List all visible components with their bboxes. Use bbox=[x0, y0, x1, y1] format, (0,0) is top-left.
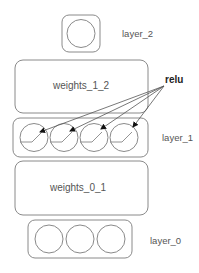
layer-1-neuron bbox=[80, 124, 108, 152]
layer-1-neuron bbox=[50, 124, 78, 152]
layer-0-label: layer_0 bbox=[150, 235, 181, 246]
layer-0-group: layer_0 bbox=[28, 220, 181, 258]
relu-label: relu bbox=[165, 74, 183, 85]
layer-1-label: layer_1 bbox=[162, 132, 193, 143]
weights-1-2-group: weights_1_2 bbox=[15, 60, 148, 113]
layer-2-neuron bbox=[67, 20, 95, 48]
layer-0-neuron bbox=[66, 225, 94, 253]
layer-2-label: layer_2 bbox=[122, 28, 153, 39]
layer-1-neuron bbox=[110, 124, 138, 152]
weights-1-2-label: weights_1_2 bbox=[52, 80, 110, 91]
layer-1-neuron bbox=[20, 124, 48, 152]
layer-1-group: layer_1 bbox=[13, 118, 193, 157]
neural-network-diagram: layer_2 weights_1_2 layer_1 relu bbox=[0, 0, 199, 273]
layer-0-neuron bbox=[97, 225, 125, 253]
weights-0-1-group: weights_0_1 bbox=[15, 161, 148, 215]
layer-0-neuron bbox=[35, 225, 63, 253]
layer-2-group: layer_2 bbox=[62, 15, 153, 52]
weights-0-1-label: weights_0_1 bbox=[49, 182, 107, 193]
